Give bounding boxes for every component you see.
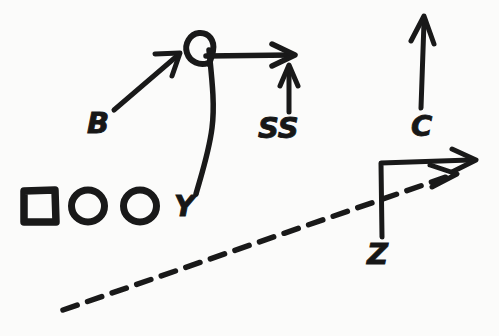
label-c: C (411, 109, 432, 143)
b-diagonal-route-arrow (114, 53, 180, 110)
ss-vertical-arrow (280, 65, 298, 112)
circle-player-marker-2 (124, 190, 157, 222)
label-ss: SS (258, 111, 299, 145)
dashed-diagonal-route-arrow (63, 165, 457, 310)
c-vertical-arrow (411, 16, 434, 108)
play-diagram-canvas: B SS C Y Z (0, 0, 499, 336)
label-y: Y (174, 189, 198, 223)
label-b: B (87, 106, 109, 140)
square-player-marker (24, 190, 56, 222)
label-z: Z (366, 237, 389, 271)
circle-player-marker-1 (72, 190, 105, 222)
y-curving-vertical-route (196, 50, 213, 194)
play-diagram-svg: B SS C Y Z (0, 0, 499, 336)
horizontal-route-arrow (206, 44, 295, 66)
